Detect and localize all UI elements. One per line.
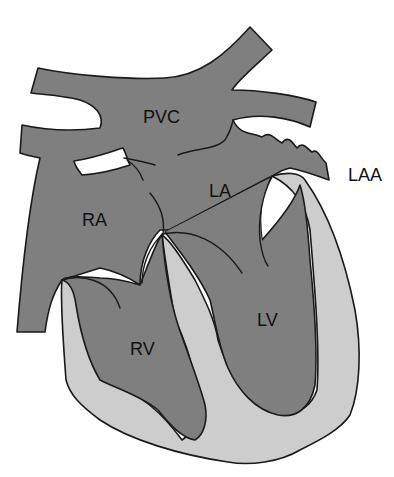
label-la: LA xyxy=(209,181,231,201)
label-rv: RV xyxy=(130,339,155,359)
heart-diagram: PVC LA LAA RA RV LV xyxy=(0,0,394,477)
label-ra: RA xyxy=(82,210,107,230)
label-laa: LAA xyxy=(348,165,382,185)
label-lv: LV xyxy=(257,310,278,330)
label-pvc: PVC xyxy=(143,107,180,127)
